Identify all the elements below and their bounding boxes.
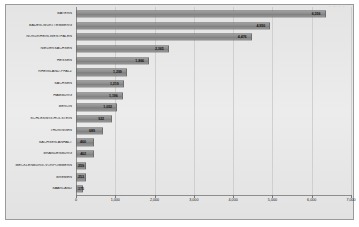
- chart-row: BRANDENBURG462: [6, 148, 351, 160]
- bar-track: 1,219: [76, 78, 351, 90]
- category-label: BADEN-WÜRTTEMBERG: [6, 24, 76, 28]
- bar-track: 922: [76, 113, 351, 125]
- bar-track: 460: [76, 137, 351, 149]
- category-label: BRANDENBURG: [6, 152, 76, 156]
- x-tick-label: 1,000: [111, 198, 120, 202]
- chart-row: HESSEN1,866: [6, 55, 351, 67]
- bar-value-label: 689: [89, 129, 95, 133]
- category-label: MECKLENBURG-VORPOMMERN: [6, 164, 76, 168]
- bar-track: 1,866: [76, 55, 351, 67]
- category-label: HAMBURG: [6, 94, 76, 98]
- x-tick-label: 4,000: [229, 198, 238, 202]
- bar-value-label: 4,950: [256, 24, 265, 28]
- bar-value-label: 1,196: [109, 94, 118, 98]
- x-axis-line: [76, 195, 351, 196]
- chart-row: THÜRINGEN689: [6, 125, 351, 137]
- x-tick-label: 7,000: [346, 198, 355, 202]
- category-label: NIEDERSACHSEN: [6, 47, 76, 51]
- bar-value-label: 2,365: [155, 47, 164, 51]
- category-label: BERLIN: [6, 105, 76, 109]
- bar-value-label: 922: [98, 117, 104, 121]
- bar-track: 175: [76, 183, 351, 195]
- category-label: NORDRHEIN-WESTFALEN: [6, 35, 76, 39]
- chart-container: • •• • • BAYERN6,356BADEN-WÜRTTEMBERG4,9…: [5, 4, 354, 220]
- chart-row: SCHLESWIG-HOLSTEIN922: [6, 113, 351, 125]
- bar-track: 4,476: [76, 31, 351, 43]
- x-tick-label: 3,000: [189, 198, 198, 202]
- bar-track: 689: [76, 125, 351, 137]
- bar-track: 259: [76, 160, 351, 172]
- chart-row: SACHSEN1,219: [6, 78, 351, 90]
- x-tick-label: 2,000: [150, 198, 159, 202]
- bar[interactable]: [76, 115, 112, 122]
- category-label: BREMEN: [6, 176, 76, 180]
- bar-track: 1,052: [76, 102, 351, 114]
- chart-row: RHEINLAND-PFALZ1,299: [6, 66, 351, 78]
- chart-row: SACHSEN-ANHALT460: [6, 137, 351, 149]
- category-label: THÜRINGEN: [6, 129, 76, 133]
- bar-value-label: 1,299: [113, 70, 122, 74]
- bar-track: 2,365: [76, 43, 351, 55]
- bar-value-label: 6,356: [312, 12, 321, 16]
- chart-row: NORDRHEIN-WESTFALEN4,476: [6, 31, 351, 43]
- x-tick-label: 0: [75, 198, 77, 202]
- bar-value-label: 4,476: [238, 35, 247, 39]
- chart-row: BREMEN253: [6, 172, 351, 184]
- category-label: BAYERN: [6, 12, 76, 16]
- category-label: HESSEN: [6, 59, 76, 63]
- bar-value-label: 253: [78, 175, 84, 179]
- bar-track: 253: [76, 172, 351, 184]
- bar-track: 1,196: [76, 90, 351, 102]
- bar-value-label: 460: [80, 140, 86, 144]
- x-tick-label: 5,000: [268, 198, 277, 202]
- chart-row: HAMBURG1,196: [6, 90, 351, 102]
- x-axis: 01,0002,0003,0004,0005,0006,0007,000: [6, 195, 351, 219]
- bar-value-label: 1,219: [110, 82, 119, 86]
- bar-track: 462: [76, 148, 351, 160]
- chart-row: MECKLENBURG-VORPOMMERN259: [6, 160, 351, 172]
- bar[interactable]: [76, 22, 270, 29]
- chart-row: BAYERN6,356: [6, 8, 351, 20]
- bar-rows: BAYERN6,356BADEN-WÜRTTEMBERG4,950NORDRHE…: [6, 8, 351, 195]
- bar-value-label: 1,866: [135, 59, 144, 63]
- category-label: SACHSEN: [6, 82, 76, 86]
- x-tick-label: 6,000: [307, 198, 316, 202]
- bar-value-label: 175: [78, 187, 84, 191]
- chart-row: SAARLAND175: [6, 183, 351, 195]
- bar[interactable]: [76, 34, 252, 41]
- bar-value-label: 259: [78, 164, 84, 168]
- category-label: SACHSEN-ANHALT: [6, 141, 76, 145]
- bar-track: 1,299: [76, 66, 351, 78]
- bar-track: 6,356: [76, 8, 351, 20]
- bar[interactable]: [76, 10, 326, 17]
- chart-row: BADEN-WÜRTTEMBERG4,950: [6, 20, 351, 32]
- chart-row: NIEDERSACHSEN2,365: [6, 43, 351, 55]
- chart-row: BERLIN1,052: [6, 102, 351, 114]
- category-label: RHEINLAND-PFALZ: [6, 70, 76, 74]
- category-label: SAARLAND: [6, 187, 76, 191]
- category-label: SCHLESWIG-HOLSTEIN: [6, 117, 76, 121]
- bar-value-label: 1,052: [103, 105, 112, 109]
- bar-value-label: 462: [80, 152, 86, 156]
- bar-track: 4,950: [76, 20, 351, 32]
